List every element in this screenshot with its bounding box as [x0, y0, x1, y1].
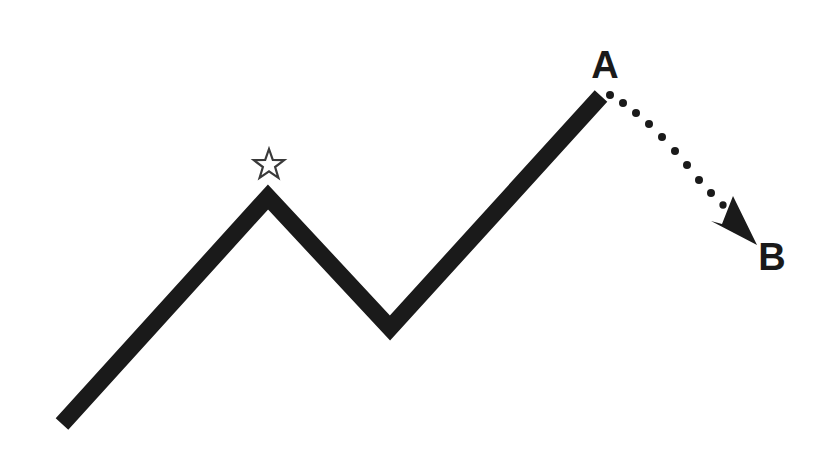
label-point-b: B — [758, 236, 785, 278]
projection-dot — [632, 109, 640, 117]
projection-dot — [619, 99, 627, 107]
projection-dot — [606, 91, 614, 99]
projection-dot — [707, 189, 715, 197]
zigzag-diagram: A B — [0, 0, 835, 460]
figure-canvas: A B — [0, 0, 835, 460]
background-rect — [0, 0, 835, 460]
label-point-a: A — [591, 44, 618, 86]
projection-dot — [695, 176, 703, 184]
projection-dot — [645, 120, 653, 128]
projection-dot — [658, 133, 666, 141]
projection-dot — [671, 147, 679, 155]
projection-dot — [683, 161, 691, 169]
projection-dot — [719, 201, 726, 208]
